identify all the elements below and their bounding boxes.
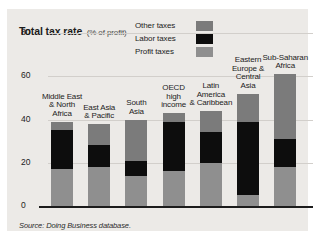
source-note: Source: Doing Business database. [19,221,131,230]
bar-segment-labor [200,132,222,162]
bar-segment-labor [274,139,296,167]
bar-segment-profit [163,171,185,206]
bar-segment-profit [274,167,296,206]
bar-segment-labor [88,145,110,167]
bar-segment-profit [200,163,222,206]
bar-column [200,111,222,206]
top-white-strip: ’ [0,0,315,9]
bar-segment-other [274,74,296,139]
bottom-white-strip [0,231,315,239]
bar-segment-other [163,113,185,122]
bar-column [237,94,259,206]
x-axis-line [39,206,313,208]
y-tick-20: 20 [21,157,45,167]
bar-segment-labor [51,130,73,169]
bar-column [51,122,73,206]
bar-segment-other [51,122,73,131]
crop-mark-glyph: ’ [9,0,12,6]
bar-segment-other [237,94,259,122]
bar-segment-profit [51,169,73,206]
y-tick-80: 80 [21,27,45,37]
bar-column [274,74,296,206]
gridline-80 [48,33,313,34]
y-axis-tick-labels: 020406080 [19,31,45,207]
y-tick-0: 0 [21,200,45,210]
plot-area: Middle East& NorthAfricaEast Asia& Pacif… [48,31,313,207]
bar-segment-profit [125,176,147,206]
bar-category-label: Sub-SaharanAfrica [262,54,308,71]
bar-column [125,120,147,207]
bar-segment-labor [163,122,185,172]
bar-segment-labor [237,122,259,196]
bar-column [88,124,110,206]
legend-item-other: Other taxes [135,20,213,31]
legend-swatch-other [196,21,213,31]
bar-column [163,113,185,206]
bar-segment-labor [125,161,147,176]
bar-segment-other [125,120,147,161]
figure-root: ’ Total tax rate (% of profit) Other tax… [0,0,315,239]
y-tick-60: 60 [21,70,45,80]
bar-category-label-line: Asia [225,82,271,91]
chart-panel: Total tax rate (% of profit) Other taxes… [7,9,308,231]
bar-category-label-line: Africa [262,62,308,71]
bar-segment-other [200,111,222,133]
bar-segment-profit [88,167,110,206]
bar-segment-profit [237,195,259,206]
legend-label: Other taxes [135,21,193,30]
bar-segment-other [88,124,110,146]
bar-category-label-line: & Caribbean [188,99,234,108]
